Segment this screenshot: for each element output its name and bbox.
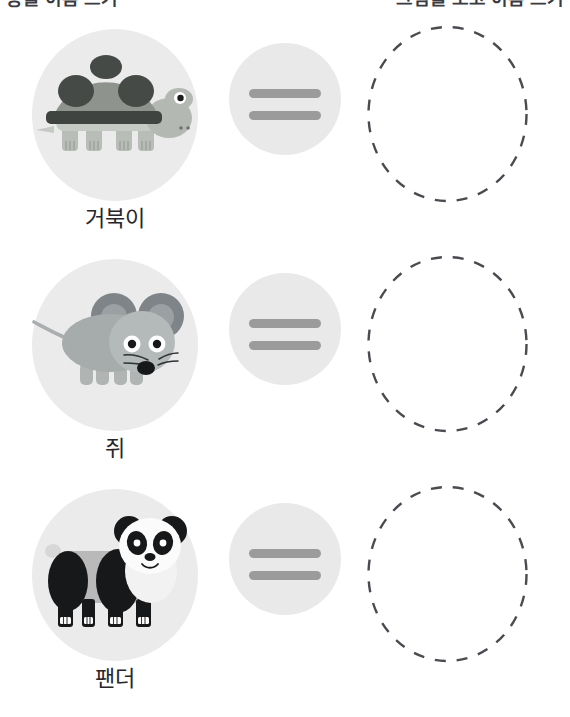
- equals-icon: [229, 43, 341, 155]
- worksheet-body: 거북이: [0, 11, 570, 717]
- dashed-answer-circle[interactable]: [364, 483, 531, 665]
- equals-bar-top: [249, 549, 321, 558]
- animal-prompt-cell[interactable]: 쥐: [32, 245, 202, 475]
- equals-icon: [229, 503, 341, 615]
- answer-slot-cell[interactable]: [358, 15, 536, 245]
- page-title-left: 동물 이름 쓰기: [6, 0, 118, 10]
- worksheet-row: 거북이: [0, 15, 570, 245]
- dashed-answer-circle[interactable]: [364, 23, 531, 205]
- turtle-illustration: [32, 29, 198, 201]
- equals-bar-top: [249, 319, 321, 328]
- animal-prompt-cell[interactable]: 거북이: [32, 15, 202, 245]
- equals-bar-bottom: [249, 341, 321, 350]
- animal-label: 쥐: [32, 435, 198, 463]
- page-title-right: 그림을 보고 이름 쓰기: [396, 0, 564, 10]
- equals-operator-cell: [229, 245, 341, 475]
- animal-label: 팬더: [32, 665, 198, 693]
- mouse-illustration: [32, 259, 198, 431]
- equals-icon: [229, 273, 341, 385]
- page-title-strip: 동물 이름 쓰기 그림을 보고 이름 쓰기: [0, 0, 570, 11]
- panda-illustration: [32, 489, 198, 661]
- equals-bar-top: [249, 89, 321, 98]
- equals-operator-cell: [229, 15, 341, 245]
- dashed-answer-circle[interactable]: [364, 253, 531, 435]
- equals-bar-bottom: [249, 111, 321, 120]
- animal-prompt-cell[interactable]: 팬더: [32, 475, 202, 705]
- worksheet-row: 쥐: [0, 245, 570, 475]
- answer-slot-cell[interactable]: [358, 475, 536, 705]
- animal-label: 거북이: [32, 205, 198, 233]
- answer-slot-cell[interactable]: [358, 245, 536, 475]
- equals-bar-bottom: [249, 571, 321, 580]
- worksheet-row: 팬더: [0, 475, 570, 705]
- equals-operator-cell: [229, 475, 341, 705]
